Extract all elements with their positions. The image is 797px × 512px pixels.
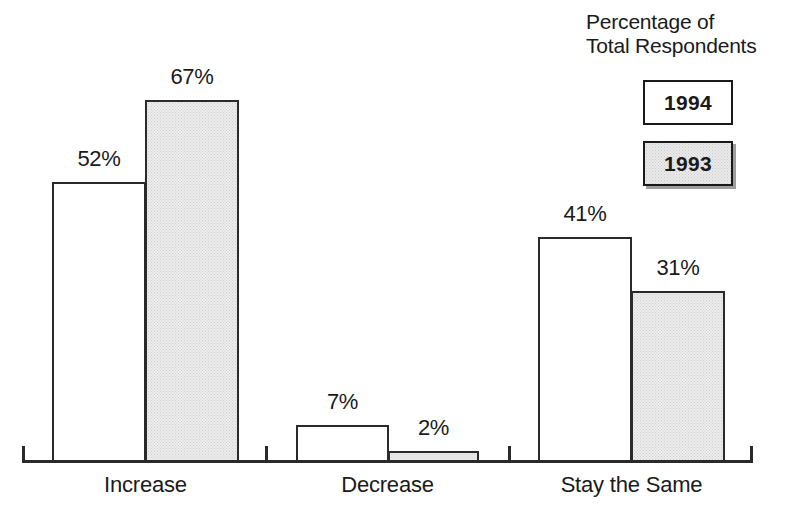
bar-chart: Percentage of Total Respondents 1994 199… [0,0,797,512]
value-label-increase-1994: 52% [52,146,146,172]
value-label-stay-1994: 41% [538,201,632,227]
value-label-decrease-1993: 2% [388,415,479,441]
axis-tick-start [22,446,25,462]
bar-decrease-1993 [388,451,479,462]
axis-tick-separator-1 [265,446,268,462]
value-label-increase-1993: 67% [145,64,239,90]
bar-increase-1993 [145,100,239,462]
category-label-increase: Increase [52,472,239,498]
category-label-stay: Stay the Same [538,472,725,498]
axis-tick-end [750,446,753,462]
bar-increase-1994 [52,182,146,462]
bar-decrease-1994 [296,425,389,462]
value-label-stay-1993: 31% [631,255,725,281]
bar-stay-1993 [631,291,725,462]
value-label-decrease-1994: 7% [296,389,389,415]
bar-stay-1994 [538,237,632,462]
axis-tick-separator-2 [508,446,511,462]
plot-area: 52% 67% Increase 7% 2% Decrease 41% 31% … [0,0,797,512]
category-label-decrease: Decrease [296,472,479,498]
